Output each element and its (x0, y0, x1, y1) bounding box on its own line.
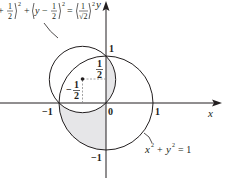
svg-text:2: 2 (92, 1, 95, 7)
x-axis-label: x (207, 107, 213, 119)
svg-text:1: 1 (8, 2, 12, 11)
tick-y-neg-one: −1 (91, 152, 102, 163)
unit-circle-equation: x 2 + y 2 = 1 (144, 142, 191, 155)
svg-text:2: 2 (52, 12, 56, 21)
svg-text:=: = (67, 5, 73, 16)
tick-x-one: 1 (155, 106, 160, 117)
svg-text:+: + (24, 5, 30, 16)
svg-text:1: 1 (81, 2, 85, 11)
center-x-half-sign: − (66, 84, 72, 95)
tick-x-neg-one: −1 (42, 106, 53, 117)
svg-text:+: + (157, 144, 163, 155)
svg-text:y: y (165, 143, 171, 155)
small-circle-leader (44, 23, 58, 38)
svg-text:1: 1 (52, 2, 56, 11)
tick-y-one: 1 (109, 43, 114, 54)
center-x-half-num: 1 (74, 79, 79, 90)
svg-text:2: 2 (151, 142, 154, 148)
svg-text:−: − (42, 5, 48, 16)
center-x-half-den: 2 (74, 90, 79, 101)
svg-text:2: 2 (172, 142, 175, 148)
svg-text:x: x (144, 143, 150, 155)
center-y-half-num: 1 (97, 58, 102, 69)
svg-text:y: y (34, 5, 40, 16)
svg-text:2: 2 (62, 1, 65, 7)
y-axis-label: y (95, 0, 101, 10)
diagram-canvas: y x −1 0 1 1 −1 1 2 − 1 2 + 1 2 2 + y − … (0, 0, 226, 179)
svg-text:+: + (0, 5, 4, 16)
svg-text:2: 2 (18, 1, 21, 7)
small-circle-equation: + 1 2 2 + y − 1 2 2 = 1 √2 2 (0, 1, 95, 21)
svg-text:√2: √2 (79, 12, 87, 21)
svg-text:= 1: = 1 (178, 144, 191, 155)
shaded-region-lower (59, 103, 106, 150)
tick-x-zero: 0 (108, 106, 113, 117)
svg-text:2: 2 (8, 12, 12, 21)
center-point (81, 77, 85, 81)
center-y-half-den: 2 (97, 69, 102, 80)
